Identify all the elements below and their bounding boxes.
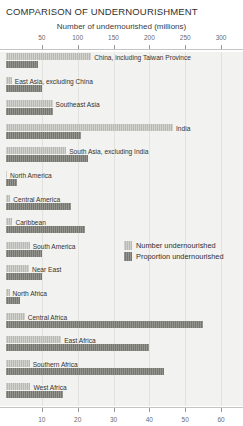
axis-tick-label: 40 <box>146 416 153 423</box>
axis-tick-label: 30 <box>110 416 117 423</box>
top-axis-line <box>0 49 243 50</box>
bar-proportion-undernourished <box>6 108 53 115</box>
bar-category-label: India <box>173 124 190 133</box>
bar-group: Central Africa <box>0 313 243 337</box>
bar-proportion-undernourished <box>6 273 42 280</box>
axis-tick-mark <box>78 408 79 412</box>
bar-group: China, including Taiwan Province <box>0 53 243 77</box>
axis-tick-mark <box>221 45 222 49</box>
bar-proportion-undernourished <box>6 250 42 257</box>
bar-category-label: Caribbean <box>12 218 45 227</box>
plot-area: China, including Taiwan ProvinceEast Asi… <box>0 52 243 406</box>
bar-proportion-undernourished <box>6 61 38 68</box>
legend-item: Proportion undernourished <box>124 251 236 262</box>
bar-proportion-undernourished <box>6 344 149 351</box>
legend-item: Number undernourished <box>124 240 236 251</box>
axis-tick-label: 20 <box>74 416 81 423</box>
bar-group: North Africa <box>0 289 243 313</box>
legend-swatch-icon <box>124 241 132 250</box>
bar-proportion-undernourished <box>6 321 203 328</box>
bar-category-label: South America <box>30 242 76 251</box>
bar-proportion-undernourished <box>6 203 71 210</box>
bar-category-label: North America <box>7 171 52 180</box>
bar-group: Southeast Asia <box>0 100 243 124</box>
bar-category-label: Central America <box>10 195 60 204</box>
bar-group: East Asia, excluding China <box>0 77 243 101</box>
bar-group: Central America <box>0 195 243 219</box>
axis-tick-mark <box>42 408 43 412</box>
chart-legend: Number undernourishedProportion undernou… <box>124 240 236 262</box>
bar-number-undernourished <box>6 53 91 60</box>
bar-group: East Africa <box>0 336 243 360</box>
bottom-axis: 102030405060 <box>0 406 243 426</box>
axis-tick-mark <box>78 45 79 49</box>
axis-tick-mark <box>114 45 115 49</box>
bar-category-label: China, including Taiwan Province <box>91 53 191 62</box>
undernourishment-chart: COMPARISON OF UNDERNOURISHMENT Number of… <box>0 0 243 426</box>
axis-tick-label: 60 <box>217 416 224 423</box>
bar-category-label: East Africa <box>61 336 96 345</box>
bar-group: South Asia, excluding India <box>0 147 243 171</box>
axis-tick-mark <box>185 45 186 49</box>
axis-tick-mark <box>185 408 186 412</box>
bar-number-undernourished <box>6 265 29 272</box>
axis-tick-mark <box>114 408 115 412</box>
axis-tick-label: 50 <box>38 34 45 41</box>
bar-number-undernourished <box>6 313 25 320</box>
bar-proportion-undernourished <box>6 179 17 186</box>
legend-label: Number undernourished <box>136 240 216 251</box>
bar-category-label: Southern Africa <box>30 360 78 369</box>
bar-category-label: Near East <box>29 265 61 274</box>
bar-category-label: Central Africa <box>25 313 68 322</box>
axis-tick-label: 300 <box>216 34 227 41</box>
bar-category-label: North Africa <box>10 289 47 298</box>
bar-group: Caribbean <box>0 218 243 242</box>
chart-title: COMPARISON OF UNDERNOURISHMENT <box>6 6 198 17</box>
axis-tick-label: 250 <box>180 34 191 41</box>
bar-category-label: West Africa <box>30 383 66 392</box>
bar-number-undernourished <box>6 147 66 154</box>
axis-tick-mark <box>149 45 150 49</box>
bar-number-undernourished <box>6 336 61 343</box>
bottom-axis-line <box>0 407 243 408</box>
legend-label: Proportion undernourished <box>136 251 224 262</box>
bar-proportion-undernourished <box>6 368 164 375</box>
bar-number-undernourished <box>6 124 173 131</box>
bar-group: North America <box>0 171 243 195</box>
bar-number-undernourished <box>6 383 30 390</box>
bar-proportion-undernourished <box>6 391 63 398</box>
bar-group: Near East <box>0 265 243 289</box>
bar-proportion-undernourished <box>6 226 85 233</box>
axis-tick-mark <box>221 408 222 412</box>
top-axis-title: Number of undernourished (millions) <box>0 22 243 31</box>
bar-proportion-undernourished <box>6 297 20 304</box>
axis-tick-label: 10 <box>38 416 45 423</box>
bar-group: India <box>0 124 243 148</box>
axis-tick-label: 50 <box>182 416 189 423</box>
axis-tick-label: 200 <box>144 34 155 41</box>
bar-category-label: Southeast Asia <box>53 100 100 109</box>
bar-proportion-undernourished <box>6 155 88 162</box>
bar-group: Southern Africa <box>0 360 243 384</box>
legend-swatch-icon <box>124 252 132 261</box>
bar-category-label: East Asia, excluding China <box>12 77 93 86</box>
bar-number-undernourished <box>6 242 30 249</box>
bar-proportion-undernourished <box>6 132 81 139</box>
axis-tick-label: 150 <box>108 34 119 41</box>
bar-number-undernourished <box>6 360 30 367</box>
axis-tick-mark <box>42 45 43 49</box>
axis-tick-label: 100 <box>72 34 83 41</box>
axis-tick-mark <box>149 408 150 412</box>
bar-group: West Africa <box>0 383 243 407</box>
bar-number-undernourished <box>6 100 53 107</box>
bar-proportion-undernourished <box>6 85 42 92</box>
bar-category-label: South Asia, excluding India <box>66 147 148 156</box>
top-axis: 50100150200250300 <box>0 34 243 54</box>
